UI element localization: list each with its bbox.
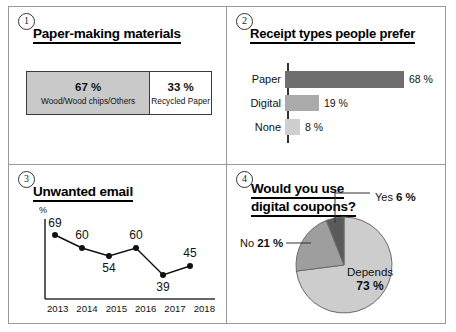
horizontal-bar-chart: Paper 68 % Digital 19 % None 8 % bbox=[241, 63, 441, 143]
x-tick-label: 2018 bbox=[194, 303, 215, 314]
x-axis-tick-labels: 2013 2014 2015 2016 2017 2018 bbox=[47, 303, 215, 314]
panel-title: Receipt types people prefer bbox=[250, 26, 415, 44]
panel-paper-making-materials: 1 Paper-making materials 67 % Wood/Wood … bbox=[9, 7, 227, 165]
bar-category-label: Digital bbox=[241, 97, 285, 109]
data-point bbox=[79, 245, 85, 251]
bar-segment-wood: 67 % Wood/Wood chips/Others bbox=[27, 72, 150, 114]
data-value-label: 54 bbox=[102, 261, 116, 275]
data-value-label: 60 bbox=[75, 228, 89, 242]
data-value-label: 39 bbox=[156, 280, 170, 294]
data-point bbox=[160, 272, 166, 278]
panel-title: Unwanted email bbox=[33, 184, 133, 202]
bar-value-label: 8 % bbox=[300, 121, 323, 133]
data-point bbox=[106, 253, 112, 259]
stacked-bar-chart: 67 % Wood/Wood chips/Others 33 % Recycle… bbox=[26, 71, 212, 115]
pie-label-value: 73 % bbox=[347, 279, 393, 294]
line-chart-plot: 69 60 54 60 39 45 bbox=[19, 205, 219, 315]
data-value-label: 45 bbox=[183, 246, 197, 260]
bar-row-paper: Paper 68 % bbox=[241, 69, 433, 89]
y-axis-unit-label: % bbox=[39, 205, 47, 215]
data-value-label: 60 bbox=[129, 228, 143, 242]
bar-value-label: 19 % bbox=[319, 97, 348, 109]
data-point bbox=[133, 245, 139, 251]
bar-segment-label: Wood/Wood chips/Others bbox=[41, 96, 135, 106]
panel-receipt-types: 2 Receipt types people prefer Paper 68 %… bbox=[227, 7, 445, 165]
panel-grid: 1 Paper-making materials 67 % Wood/Wood … bbox=[9, 7, 445, 323]
bar-row-digital: Digital 19 % bbox=[241, 93, 348, 113]
pie-label-name: Yes bbox=[375, 191, 393, 203]
x-tick-label: 2017 bbox=[164, 303, 185, 314]
panel-title: Paper-making materials bbox=[33, 26, 181, 44]
panel-title-text: Receipt types people prefer bbox=[250, 26, 415, 44]
infographic-sheet: 1 Paper-making materials 67 % Wood/Wood … bbox=[8, 6, 446, 324]
x-tick-label: 2014 bbox=[76, 303, 97, 314]
pie-label-no: No 21 % bbox=[240, 237, 283, 249]
bar-paper bbox=[285, 71, 404, 88]
x-tick-label: 2015 bbox=[106, 303, 127, 314]
panel-digital-coupons: 4 Would you use digital coupons? bbox=[227, 165, 445, 323]
pie-label-name: No bbox=[240, 237, 254, 249]
panel-title-text: Paper-making materials bbox=[33, 26, 181, 44]
panel-title-text: Unwanted email bbox=[33, 184, 133, 202]
bar-segment-value: 33 % bbox=[168, 81, 194, 93]
pie-label-depends: Depends 73 % bbox=[347, 265, 393, 294]
panel-unwanted-email: 3 Unwanted email % 6 bbox=[9, 165, 227, 323]
x-tick-label: 2013 bbox=[47, 303, 68, 314]
data-value-label: 69 bbox=[48, 216, 62, 230]
bar-category-label: Paper bbox=[241, 73, 285, 85]
bar-value-label: 68 % bbox=[404, 73, 433, 85]
bar-segment-recycled: 33 % Recycled Paper bbox=[150, 72, 211, 114]
pie-label-value: 21 % bbox=[257, 237, 283, 249]
bar-segment-value: 67 % bbox=[75, 81, 101, 93]
line-chart: % 69 60 54 60 39 bbox=[19, 205, 219, 323]
pie-label-name: Depends bbox=[347, 265, 393, 279]
bar-segment-label: Recycled Paper bbox=[151, 96, 210, 106]
bar-none bbox=[285, 119, 300, 135]
pie-chart: No 21 % Yes 6 % Depends 73 % bbox=[227, 165, 445, 323]
x-tick-label: 2016 bbox=[135, 303, 156, 314]
data-point bbox=[187, 263, 193, 269]
pie-label-value: 6 % bbox=[396, 191, 416, 203]
data-point bbox=[52, 232, 58, 238]
bar-category-label: None bbox=[241, 121, 285, 133]
bar-row-none: None 8 % bbox=[241, 117, 323, 137]
pie-label-yes: Yes 6 % bbox=[375, 191, 416, 203]
bar-digital bbox=[285, 95, 319, 111]
